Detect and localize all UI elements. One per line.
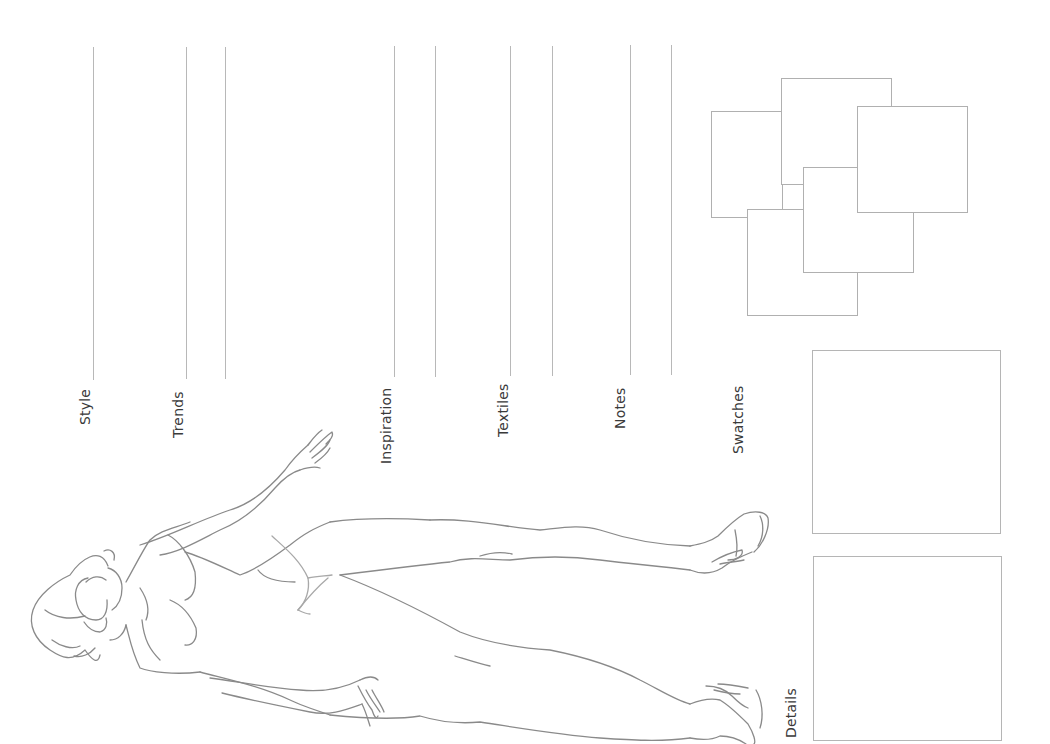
croquis-figure-icon bbox=[0, 0, 1050, 744]
sketch-page: Style Trends Inspiration Textiles Notes … bbox=[0, 0, 1050, 744]
